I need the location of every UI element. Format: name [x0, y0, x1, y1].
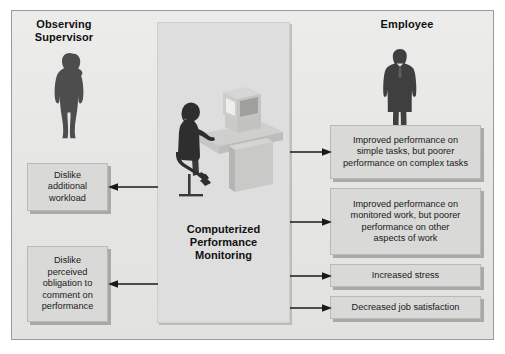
box-improved-performance-monitored-work: Improved performance on monitored work, …	[330, 188, 481, 255]
center-panel-title: Computerized Performance Monitoring	[157, 223, 290, 262]
heading-observing-supervisor: Observing Supervisor	[16, 18, 112, 43]
heading-employee: Employee	[355, 18, 459, 31]
figure-root: Observing Supervisor Employee	[0, 0, 505, 354]
arrow-to-simple-tasks	[290, 147, 332, 157]
arrow-to-monitored-work	[290, 217, 332, 227]
worker-at-computer-illustration	[163, 82, 287, 200]
arrow-to-dislike-obligation	[108, 279, 158, 289]
box-dislike-perceived-obligation: Dislike perceived obligation to comment …	[27, 246, 108, 322]
box-dislike-additional-workload: Dislike additional workload	[27, 163, 108, 211]
box-improved-performance-simple-tasks: Improved performance on simple tasks, bu…	[330, 125, 481, 179]
arrow-to-dislike-workload	[108, 182, 158, 192]
supervisor-silhouette-icon	[50, 52, 90, 140]
arrow-to-increased-stress	[290, 271, 332, 281]
box-decreased-job-satisfaction: Decreased job satisfaction	[330, 296, 481, 319]
arrow-to-decreased-satisfaction	[290, 303, 332, 313]
box-increased-stress: Increased stress	[330, 264, 481, 287]
